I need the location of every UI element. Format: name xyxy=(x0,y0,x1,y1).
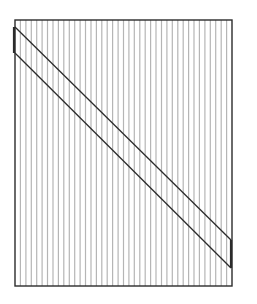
hatched-panel-diagram xyxy=(0,0,257,304)
hatch-lines xyxy=(20,20,226,286)
